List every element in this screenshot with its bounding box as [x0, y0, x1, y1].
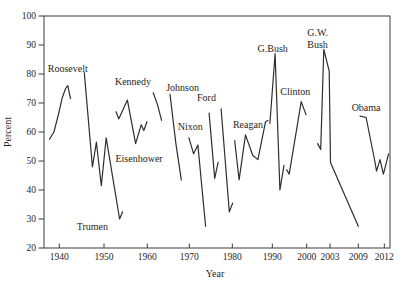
series-eisenhower-line	[116, 100, 147, 144]
x-tick-label-1950: 1950	[95, 252, 114, 262]
x-tick-label-1990: 1990	[263, 252, 282, 262]
series-truman-label: Trumen	[77, 221, 108, 232]
y-axis-title: Percent	[2, 117, 13, 147]
series-ford-label: Ford	[197, 92, 216, 103]
series-clinton-line	[287, 102, 306, 175]
x-tick-label-1940: 1940	[50, 252, 69, 262]
approval-line-chart: 2030405060708090100194019501960197019801…	[0, 0, 404, 291]
x-tick-label-2009: 2009	[349, 252, 368, 262]
x-tick-label-1960: 1960	[138, 252, 157, 262]
series-kennedy-label: Kennedy	[115, 76, 151, 87]
y-tick-label-30: 30	[27, 214, 37, 224]
series-g-bush-label: G.Bush	[257, 43, 287, 54]
y-tick-label-60: 60	[27, 127, 37, 137]
series-eisenhower-label: Eisenhower	[115, 153, 163, 164]
y-tick-label-100: 100	[22, 11, 37, 21]
x-axis-title: Year	[206, 268, 225, 279]
series-g-bush-line	[270, 54, 284, 190]
x-tick-label-1970: 1970	[180, 252, 199, 262]
series-gw-bush-label: G.W.Bush	[307, 27, 328, 50]
plot-frame	[44, 16, 390, 248]
series-roosevelt-line	[50, 86, 71, 140]
series-johnson-line	[170, 94, 181, 180]
y-tick-label-50: 50	[27, 156, 37, 166]
series-clinton-label: Clinton	[280, 86, 310, 97]
y-tick-label-80: 80	[27, 69, 37, 79]
y-tick-label-40: 40	[27, 185, 37, 195]
x-tick-label-2000: 2000	[297, 252, 316, 262]
approval-chart-figure: 2030405060708090100194019501960197019801…	[0, 0, 404, 291]
series-carter-line	[221, 109, 233, 212]
x-tick-label-2003: 2003	[321, 252, 340, 262]
series-gw-bush-line	[318, 49, 359, 226]
series-truman-line	[84, 73, 122, 219]
x-tick-label-2012: 2012	[375, 252, 394, 262]
series-ford-line	[209, 113, 218, 178]
series-kennedy-line	[153, 93, 161, 121]
series-obama-line	[360, 116, 389, 174]
y-tick-label-90: 90	[27, 40, 37, 50]
series-obama-label: Obama	[352, 102, 381, 113]
series-reagan-label: Reagan	[233, 119, 263, 130]
y-tick-label-70: 70	[27, 98, 37, 108]
series-nixon-label: Nixon	[178, 121, 203, 132]
series-nixon-line	[189, 138, 206, 227]
series-roosevelt-label: Roosevelt	[48, 63, 88, 74]
series-johnson-label: Johnson	[166, 82, 199, 93]
y-tick-label-20: 20	[27, 243, 37, 253]
x-tick-label-1980: 1980	[223, 252, 242, 262]
